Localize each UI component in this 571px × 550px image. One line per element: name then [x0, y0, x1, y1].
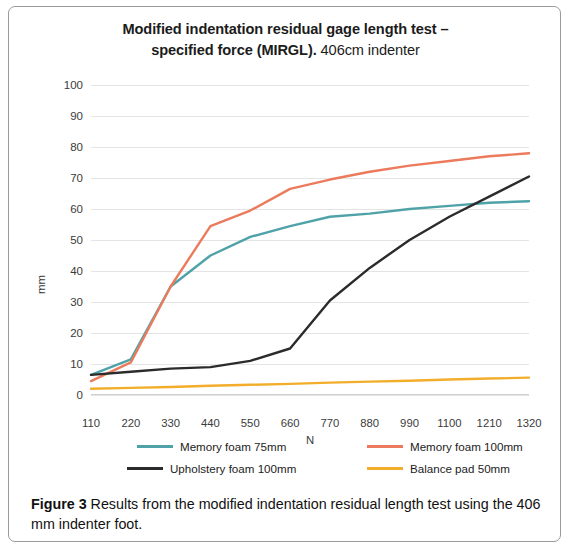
x-axis-tick-label: 990	[400, 417, 419, 429]
legend-item[interactable]: Memory foam 75mm	[137, 438, 286, 454]
chart-legend: Memory foam 75mmMemory foam 100mmUpholst…	[9, 435, 561, 483]
y-axis-tick-label: 100	[49, 79, 83, 91]
plot-canvas: 0102030405060708090100 11022033044055066…	[91, 85, 529, 395]
series-line	[91, 153, 529, 381]
chart-title-line1: Modified indentation residual gage lengt…	[122, 21, 448, 37]
x-axis-tick-label: 1210	[477, 417, 502, 429]
legend-item[interactable]: Balance pad 50mm	[367, 460, 510, 476]
series-line	[91, 378, 529, 389]
x-axis-tick-label: 1100	[437, 417, 461, 429]
series-line	[91, 176, 529, 374]
series-line	[91, 201, 529, 375]
x-axis-tick-label: 550	[241, 417, 260, 429]
chart-title: Modified indentation residual gage lengt…	[9, 19, 561, 61]
y-axis-tick-label: 10	[49, 358, 83, 370]
legend-color-swatch	[137, 445, 173, 448]
chart-plot-region: mm 0102030405060708090100 11022033044055…	[9, 69, 561, 429]
x-axis-tick-label: 1320	[516, 417, 541, 429]
legend-label: Upholstery foam 100mm	[170, 462, 296, 475]
x-axis-tick-label: 440	[201, 417, 220, 429]
legend-label: Memory foam 75mm	[180, 440, 286, 453]
legend-item[interactable]: Memory foam 100mm	[367, 438, 523, 454]
y-axis-tick-label: 40	[49, 265, 83, 277]
x-axis-tick-label: 770	[320, 417, 339, 429]
x-axis-tick-label: 220	[121, 417, 140, 429]
chart-title-line2-bold: specified force (MIRGL).	[151, 42, 316, 58]
x-axis-tick-label: 660	[281, 417, 300, 429]
x-axis-tick-label: 330	[161, 417, 180, 429]
chart-title-line2-light: 406cm indenter	[317, 42, 420, 58]
legend-label: Memory foam 100mm	[410, 440, 523, 453]
caption-text: Results from the modified indentation re…	[31, 496, 540, 532]
y-axis-tick-label: 80	[49, 141, 83, 153]
legend-color-swatch	[127, 467, 163, 470]
x-axis-tick-label: 880	[360, 417, 379, 429]
y-axis-tick-label: 0	[49, 389, 83, 401]
y-axis-tick-label: 50	[49, 234, 83, 246]
legend-color-swatch	[367, 445, 403, 448]
y-axis-tick-label: 20	[49, 327, 83, 339]
y-axis-tick-label: 60	[49, 203, 83, 215]
x-axis-baseline	[91, 394, 529, 395]
x-axis-tick-label: 110	[82, 417, 100, 429]
legend-item[interactable]: Upholstery foam 100mm	[127, 460, 296, 476]
figure-caption: Figure 3 Results from the modified inden…	[31, 494, 543, 534]
legend-color-swatch	[367, 467, 403, 470]
y-axis-tick-label: 90	[49, 110, 83, 122]
y-axis-tick-label: 70	[49, 172, 83, 184]
caption-label: Figure 3	[31, 496, 87, 512]
y-axis-tick-label: 30	[49, 296, 83, 308]
legend-label: Balance pad 50mm	[410, 462, 510, 475]
gridline	[91, 395, 529, 396]
series-lines	[91, 85, 529, 395]
y-axis-title: mm	[35, 275, 47, 294]
figure-container: Modified indentation residual gage lengt…	[8, 6, 561, 542]
